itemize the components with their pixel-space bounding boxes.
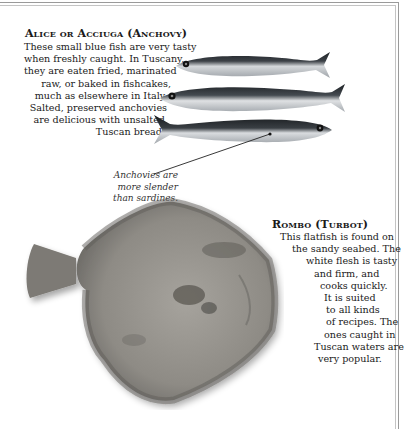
turbot-line: white flesh is tasty	[262, 255, 390, 267]
turbot-line: the sandy seabed. The	[262, 243, 390, 255]
caption-line: Anchovies are	[96, 170, 178, 182]
turbot-image	[14, 190, 284, 410]
anchovy-line: they are eaten fried, marinated	[24, 65, 189, 77]
turbot-line: of recipes. The	[262, 316, 390, 328]
turbot-section: Rombo (Turbot) This flatfish is found on…	[262, 218, 390, 365]
anchovy-line: These small blue fish are very tasty	[24, 41, 189, 53]
frame-right-outer	[398, 2, 399, 429]
turbot-line: cooks quickly.	[262, 280, 390, 292]
anchovy-line: when freshly caught. In Tuscany,	[24, 53, 189, 65]
turbot-line: Tuscan waters are	[262, 341, 390, 353]
anchovy-title: Alice or Acciuga (Anchovy)	[24, 27, 189, 40]
frame-right-inner	[395, 5, 396, 429]
turbot-line: It is suited	[262, 292, 390, 304]
turbot-line: ones caught in	[262, 329, 390, 341]
turbot-title: Rombo (Turbot)	[262, 218, 390, 231]
turbot-line: to all kinds	[262, 304, 390, 316]
frame-top-outer	[0, 2, 398, 3]
turbot-line: very popular.	[262, 353, 390, 365]
turbot-description: This flatfish is found on the sandy seab…	[262, 231, 390, 365]
frame-top-inner	[0, 5, 395, 6]
turbot-line: and firm, and	[262, 268, 390, 280]
turbot-line: This flatfish is found on	[262, 231, 390, 243]
cut-off-footer-text	[140, 424, 300, 429]
